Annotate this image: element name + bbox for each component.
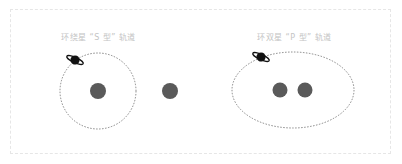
host-star-icon xyxy=(90,83,106,99)
p-type-orbit-path xyxy=(232,52,354,128)
companion-star-icon xyxy=(162,83,178,99)
binary-star-b-icon xyxy=(298,83,313,98)
planet-icon xyxy=(251,49,271,65)
orbit-diagram xyxy=(0,0,402,164)
planet-icon xyxy=(65,52,85,68)
binary-star-a-icon xyxy=(273,83,288,98)
